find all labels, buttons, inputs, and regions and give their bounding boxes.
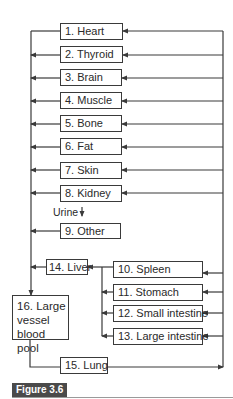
organ-box-fat: 6. Fat [60,138,122,155]
figure-label: Figure 3.6 [12,383,67,397]
pbpk-diagram: 1. Heart 2. Thyroid 3. Brain 4. Muscle 5… [0,0,233,399]
organ-box-lung: 15. Lung [60,357,108,374]
organ-box-brain: 3. Brain [60,69,122,86]
organ-box-stomach: 11. Stomach [113,284,203,301]
organ-box-skin: 7. Skin [60,162,122,179]
urine-label: Urine [53,206,78,218]
organ-box-spleen: 10. Spleen [113,261,203,278]
organ-box-large-vessel-blood-pool: 16. Large vessel blood pool [12,295,69,340]
organ-box-liver: 14. Liver [46,259,88,275]
organ-box-heart: 1. Heart [60,23,123,40]
organ-box-large-intestine: 13. Large intestine [113,328,203,345]
organ-box-bone: 5. Bone [60,115,122,132]
organ-box-small-intestine: 12. Small intestine [113,305,203,322]
organ-box-muscle: 4. Muscle [60,92,122,109]
organ-box-thyroid: 2. Thyroid [60,46,123,63]
organ-box-kidney: 8. Kidney [60,185,122,202]
organ-box-other: 9. Other [60,223,121,239]
figure-rule [12,397,233,398]
